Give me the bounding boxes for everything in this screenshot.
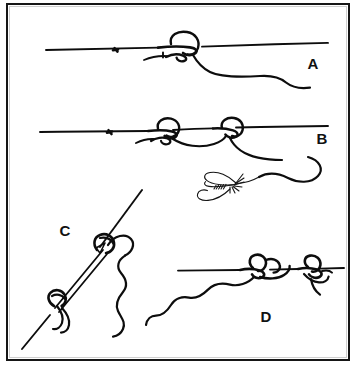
knot-d-right-wrap [298, 268, 322, 278]
artificial-fly [197, 172, 259, 200]
knot-a-main-line-right [202, 43, 328, 47]
knot-c-arrowhead [96, 243, 105, 253]
knot-a-wrap-lower [166, 54, 186, 61]
knot-b-tag-end [230, 138, 282, 160]
panel-label-d: D [261, 308, 272, 325]
knot-a-tag-end [193, 55, 310, 88]
panel-label-c: C [60, 222, 71, 239]
knot-d-main-line-mid [270, 269, 298, 270]
knot-b-main-line-left [40, 131, 148, 132]
knot-b-twist-mark [107, 130, 112, 134]
knot-b-tippet-to-fly [259, 157, 321, 182]
knot-d-wavy-tag [146, 277, 254, 325]
knot-a-loop-upper [171, 32, 199, 55]
panel-label-a: A [308, 55, 319, 72]
panel-label-b: B [317, 130, 328, 147]
figure-page: A [0, 0, 357, 371]
knot-d-left-loop-2 [266, 259, 280, 273]
figure-caption-strip [0, 362, 357, 371]
knot-a-main-line-left [46, 48, 158, 50]
knot-a-tag-spur [144, 56, 168, 60]
knot-c-line-lower [22, 315, 50, 349]
knot-c-strand-2 [59, 254, 107, 312]
knot-c-wavy-tag [113, 256, 126, 337]
knot-b-main-line-right [236, 126, 328, 128]
figure-border-frame: A [6, 3, 350, 361]
knot-d-main-line-right [320, 268, 344, 269]
fly-hook-bend [197, 189, 230, 200]
knot-a-twist-mark [113, 48, 118, 51]
knot-c-strand-1 [55, 250, 103, 308]
fly-wing-upper [205, 172, 236, 185]
knot-diagram-c: C [22, 190, 142, 349]
knot-diagram-d: D [146, 255, 344, 325]
knot-diagram-b: B [40, 118, 328, 201]
knot-d-main-line-left [178, 270, 240, 271]
knot-b-connector [173, 136, 226, 146]
knot-d-right-spur [322, 271, 332, 273]
knot-diagram-a: A [46, 32, 328, 88]
knot-illustration: A [8, 5, 348, 359]
